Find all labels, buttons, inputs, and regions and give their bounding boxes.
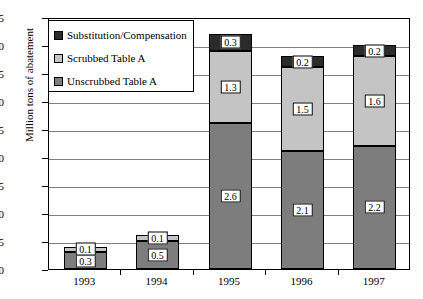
x-axis-tick-mark [193, 270, 194, 275]
legend-label: Unscrubbed Table A [67, 75, 157, 87]
y-axis-tick-label: 1.0 [0, 208, 4, 220]
y-axis-tick-label: 2.5 [0, 124, 4, 136]
bar-segment[interactable]: 0.1 [136, 235, 179, 241]
x-axis-tick-mark [120, 270, 121, 275]
bar-stack[interactable]: 2.21.60.2 [353, 17, 396, 269]
bar-segment[interactable]: 2.1 [281, 151, 324, 269]
x-axis-tick-label: 1994 [146, 275, 168, 287]
y-axis-tick-label: 3.0 [0, 96, 4, 108]
legend-item[interactable]: Scrubbed Table A [54, 51, 145, 65]
bar-segment[interactable]: 1.6 [353, 56, 396, 146]
bar-value-label: 1.5 [292, 103, 313, 116]
bar-value-label: 2.1 [292, 204, 313, 217]
bar-value-label: 2.6 [220, 190, 241, 203]
bar-stack[interactable]: 2.11.50.2 [281, 17, 324, 269]
bar-segment[interactable]: 0.2 [353, 45, 396, 56]
x-axis-tick-label: 1997 [363, 275, 385, 287]
y-axis-tick-label: 1.5 [0, 180, 4, 192]
legend-label: Scrubbed Table A [67, 52, 145, 64]
bar-stack[interactable]: 2.61.30.3 [209, 17, 252, 269]
chart-legend: Substitution/CompensationScrubbed Table … [48, 20, 194, 92]
y-axis-tick-label: 3.5 [0, 68, 4, 80]
bar-value-label: 1.6 [364, 95, 385, 108]
x-axis-tick-label: 1995 [218, 275, 240, 287]
x-axis-tick-mark [338, 270, 339, 275]
bar-value-label: 1.3 [220, 81, 241, 94]
x-axis-tick-mark [265, 270, 266, 275]
y-axis-tick-mark [42, 270, 48, 271]
bar-segment[interactable]: 0.3 [209, 34, 252, 51]
bar-segment[interactable]: 0.1 [64, 247, 107, 253]
bar-value-label: 2.2 [364, 201, 385, 214]
bar-value-label: 0.3 [220, 36, 241, 49]
legend-swatch-icon [54, 77, 63, 86]
legend-item[interactable]: Unscrubbed Table A [54, 74, 157, 88]
y-axis-tick-label: 4.5 [0, 12, 4, 24]
bar-segment[interactable]: 2.6 [209, 123, 252, 269]
bar-segment[interactable]: 0.2 [281, 56, 324, 67]
bar-segment[interactable]: 1.3 [209, 51, 252, 124]
legend-swatch-icon [54, 54, 63, 63]
stacked-bar-chart: Million tons of abatement 0.00.51.01.52.… [0, 0, 423, 299]
legend-item[interactable]: Substitution/Compensation [54, 28, 187, 42]
y-axis-tick-label: 2.0 [0, 152, 4, 164]
x-axis-tick-label: 1993 [73, 275, 95, 287]
bar-segment[interactable]: 2.2 [353, 146, 396, 269]
bar-value-label: 0.1 [75, 243, 96, 256]
x-axis-tick-label: 1996 [290, 275, 312, 287]
bar-segment[interactable]: 0.5 [136, 241, 179, 269]
y-axis-tick-label: 0.5 [0, 236, 4, 248]
bar-value-label: 0.1 [147, 232, 168, 245]
y-axis-tick-label: 0.0 [0, 264, 4, 276]
bar-value-label: 0.2 [292, 55, 313, 68]
y-axis-tick-label: 4.0 [0, 40, 4, 52]
legend-swatch-icon [54, 31, 63, 40]
bar-segment[interactable]: 1.5 [281, 67, 324, 151]
bar-value-label: 0.3 [75, 254, 96, 267]
y-axis-title: Million tons of abatement [21, 0, 37, 180]
bar-value-label: 0.2 [364, 44, 385, 57]
legend-label: Substitution/Compensation [67, 29, 187, 41]
bar-value-label: 0.5 [147, 249, 168, 262]
